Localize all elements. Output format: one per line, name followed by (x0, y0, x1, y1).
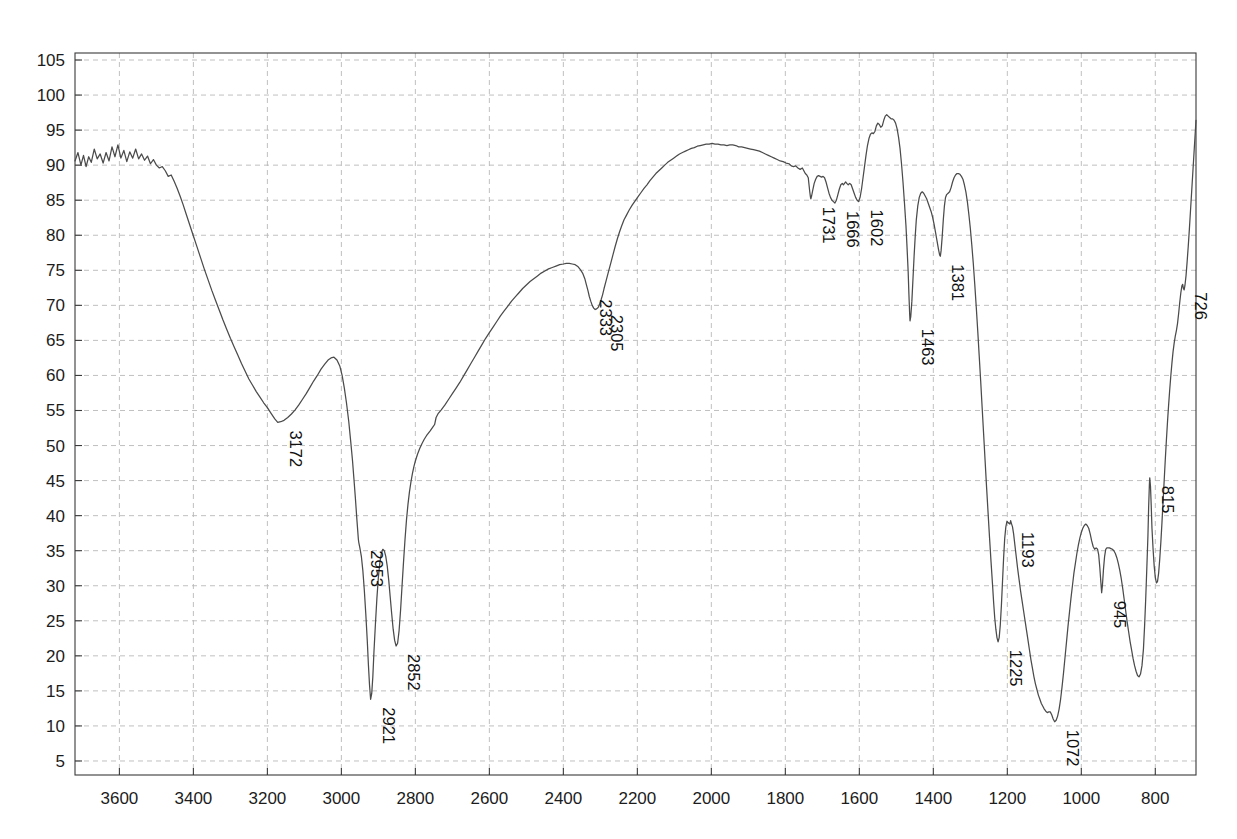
x-tick-label: 800 (1141, 789, 1169, 808)
ir-spectrum-figure: 5101520253035404550556065707580859095100… (0, 0, 1237, 839)
peak-label-945: 945 (1111, 601, 1129, 629)
plot-frame (75, 53, 1196, 775)
peak-label-3172: 3172 (287, 430, 305, 467)
spectrum-trace (75, 115, 1196, 722)
y-tick-label: 70 (46, 296, 65, 315)
y-tick-label: 55 (46, 401, 65, 420)
spectrum-plot: 5101520253035404550556065707580859095100… (0, 0, 1237, 839)
x-tick-label: 2200 (618, 789, 656, 808)
x-tick-label: 1200 (988, 789, 1026, 808)
y-tick-label: 80 (46, 226, 65, 245)
peak-label-1225: 1225 (1007, 650, 1025, 687)
y-tick-label: 50 (46, 437, 65, 456)
x-tick-label: 3400 (174, 789, 212, 808)
x-tick-label: 1600 (840, 789, 878, 808)
peak-label-1666: 1666 (844, 211, 862, 248)
x-tick-label: 3000 (322, 789, 360, 808)
y-tick-label: 65 (46, 331, 65, 350)
x-tick-label: 2400 (544, 789, 582, 808)
peak-label-2921: 2921 (380, 707, 398, 744)
peak-label-1072: 1072 (1064, 730, 1082, 767)
y-tick-label: 90 (46, 156, 65, 175)
y-tick-label: 95 (46, 121, 65, 140)
y-tick-label: 85 (46, 191, 65, 210)
y-tick-label: 60 (46, 366, 65, 385)
x-tick-label: 1400 (914, 789, 952, 808)
y-tick-label: 100 (37, 86, 65, 105)
peak-label-1193: 1193 (1019, 532, 1037, 567)
y-tick-label: 5 (56, 752, 65, 771)
y-tick-label: 30 (46, 577, 65, 596)
peak-label-1731: 1731 (820, 207, 838, 244)
y-tick-label: 20 (46, 647, 65, 666)
y-tick-label: 75 (46, 261, 65, 280)
y-tick-label: 40 (46, 507, 65, 526)
peak-label-1381: 1381 (949, 264, 967, 301)
x-tick-label: 1800 (766, 789, 804, 808)
x-axis-tick-labels: 3600340032003000280026002400220020001800… (100, 789, 1169, 808)
gridlines (75, 53, 1196, 775)
x-tick-label: 3200 (248, 789, 286, 808)
y-tick-label: 10 (46, 717, 65, 736)
peak-label-2852: 2852 (405, 654, 423, 691)
x-tick-label: 2800 (396, 789, 434, 808)
y-tick-label: 45 (46, 472, 65, 491)
y-tick-label: 25 (46, 612, 65, 631)
y-tick-label: 35 (46, 542, 65, 561)
peak-label-1602: 1602 (868, 210, 886, 247)
y-tick-label: 15 (46, 682, 65, 701)
x-tick-label: 3600 (100, 789, 138, 808)
x-tick-label: 2600 (470, 789, 508, 808)
peak-annotations: 3172295329212852233323051731166616021463… (287, 207, 1210, 767)
y-tick-label: 105 (37, 51, 65, 70)
x-tick-label: 1000 (1062, 789, 1100, 808)
peak-label-1463: 1463 (919, 329, 937, 366)
peak-label-2953: 2953 (368, 550, 386, 587)
y-axis-tick-labels: 5101520253035404550556065707580859095100… (37, 51, 65, 771)
peak-label-726: 726 (1192, 292, 1210, 320)
peak-label-2305: 2305 (608, 315, 626, 352)
peak-label-815: 815 (1159, 486, 1177, 514)
tickmarks (75, 60, 1155, 775)
x-tick-label: 2000 (692, 789, 730, 808)
